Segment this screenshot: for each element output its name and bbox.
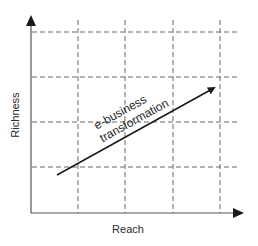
y-axis-label: Richness xyxy=(9,92,21,138)
arrow-label: e-business transformation xyxy=(90,84,171,146)
x-axis-label: Reach xyxy=(112,223,144,235)
y-axis-arrowhead-icon xyxy=(26,15,36,26)
reach-richness-diagram: e-business transformation Richness Reach xyxy=(0,0,258,246)
x-axis-arrowhead-icon xyxy=(233,208,244,218)
